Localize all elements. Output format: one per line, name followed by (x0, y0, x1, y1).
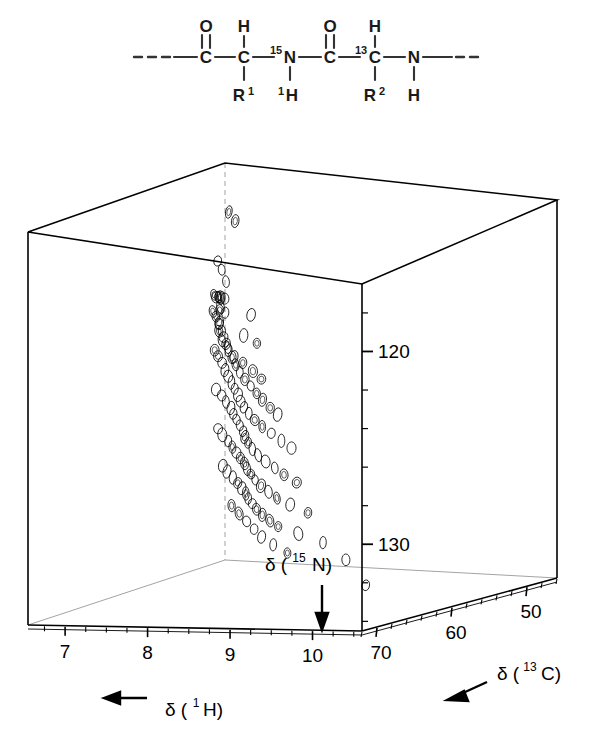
peak-contour (236, 366, 243, 378)
c13-axis-title-group: δ ( 13 C) (447, 660, 561, 701)
peak-contour (319, 536, 326, 549)
peak-contour (273, 492, 281, 505)
c13-axis-title-nucleus: C) (541, 663, 561, 684)
peak-contour (266, 402, 275, 413)
peak-contour (250, 524, 258, 535)
peak-contour (267, 428, 276, 439)
peak-contour (238, 357, 247, 369)
n15-axis-tick-label: 120 (378, 341, 410, 362)
n15-axis-arrow-icon (316, 585, 328, 630)
peak-contour (259, 420, 266, 433)
h1-axis-tick-labels: 10987 (60, 641, 323, 666)
peak-contour (278, 434, 285, 447)
c13-axis-tick-labels: 706050 (370, 601, 541, 663)
c13-axis-tick-label: 60 (445, 622, 466, 643)
peak-contour (211, 383, 221, 396)
c13-axis-title-superscript: 13 (523, 660, 537, 674)
spectrum-3d-cube: 10987 706050 120130 δ ( 1 H) δ ( (0, 0, 596, 744)
peak-contour (249, 414, 260, 427)
c13-axis-tick-label: 50 (520, 601, 541, 622)
peak-contour (242, 516, 252, 528)
peak-contour (342, 554, 350, 566)
peak-contour (291, 476, 302, 488)
peak-contour (224, 205, 233, 219)
peak-contour (285, 498, 295, 512)
peak-contour (258, 508, 266, 522)
peak-contour (240, 373, 249, 386)
n15-axis-tick-label: 130 (378, 534, 410, 555)
peak-contour (271, 462, 279, 474)
n15-axis-title-superscript: 15 (292, 551, 306, 565)
peak-contour (260, 454, 271, 468)
peak-contour (253, 338, 261, 348)
h1-axis-arrow-icon (104, 692, 147, 704)
n15-axis-ticks (362, 313, 373, 621)
peak-contour (245, 407, 252, 419)
n15-axis-tick-labels: 120130 (378, 341, 410, 555)
h1-axis-title-superscript: 1 (193, 696, 200, 710)
peak-contour (287, 442, 296, 455)
c13-axis-title-delta: δ ( (497, 663, 520, 684)
peak-contour (231, 214, 240, 228)
h1-axis-title-group: δ ( 1 H) (104, 692, 223, 720)
axis-titles: δ ( 1 H) δ ( 13 C) δ ( (104, 551, 561, 720)
peak-contour (218, 264, 226, 275)
peak-contour (279, 469, 288, 481)
h1-axis-title-nucleus: H) (203, 699, 223, 720)
n15-axis-title-group: δ ( 15 N) (265, 551, 332, 630)
peak-contour (274, 521, 281, 531)
h1-axis-tick-label: 7 (60, 641, 71, 662)
peak-contour (258, 393, 268, 407)
h1-axis-title-delta: δ ( (165, 699, 188, 720)
peak-contour (293, 526, 304, 541)
peak-contour (251, 475, 258, 486)
peak-contour (210, 344, 219, 356)
peak-contour (239, 401, 248, 414)
nmr-3d-figure: C C 15 N C 13 C N O O H H 1 H H R 1 R 2 (0, 0, 596, 744)
peak-contour (269, 538, 277, 551)
n15-axis-title-delta: δ ( (265, 554, 288, 575)
peak-contour (222, 275, 230, 287)
peak-contour (256, 374, 266, 385)
h1-axis-tick-label: 10 (302, 645, 323, 666)
c13-axis-arrow-icon (447, 682, 487, 701)
n15-axis-title-nucleus: N) (312, 554, 332, 575)
peak-contour (304, 507, 312, 518)
c13-axis-tick-label: 70 (370, 642, 391, 663)
h1-axis-tick-label: 9 (225, 644, 236, 665)
peak-contour (248, 364, 258, 378)
peak-contour (221, 337, 231, 350)
peak-contour (246, 308, 257, 322)
peak-contour (264, 485, 273, 499)
peak-contour (228, 499, 236, 512)
peak-contour (239, 328, 248, 342)
peak-contour (257, 530, 267, 544)
h1-axis-tick-label: 8 (142, 642, 153, 663)
peak-contour (253, 388, 261, 399)
